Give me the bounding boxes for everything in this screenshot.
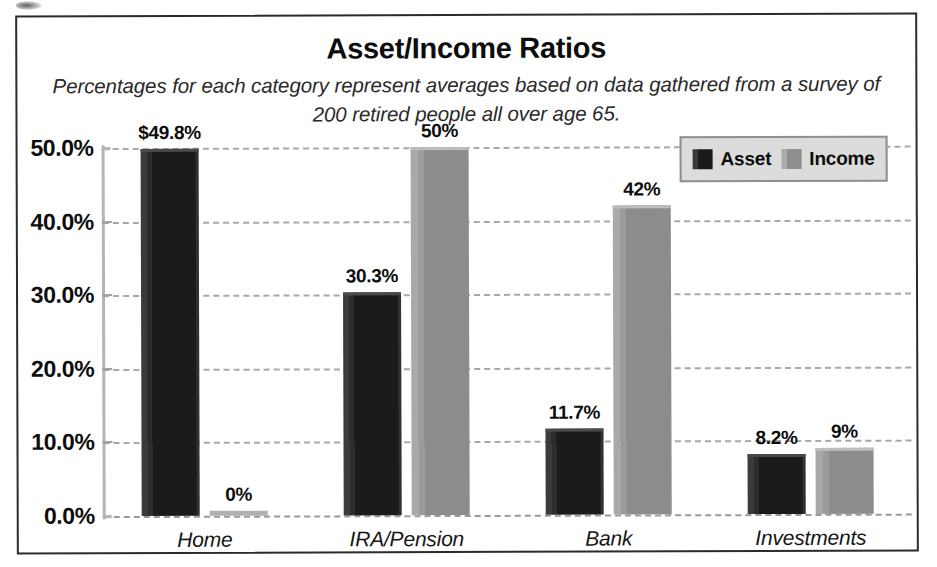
x-axis-category-label: Home [177, 528, 232, 552]
bar-value-label: 30.3% [346, 265, 398, 287]
y-axis-tick [102, 147, 111, 150]
y-axis-tick-label: 50.0% [30, 135, 93, 162]
y-axis-tick-label: 20.0% [31, 355, 94, 382]
chart-legend: Asset Income [680, 136, 888, 183]
y-axis-tick-label: 10.0% [31, 429, 94, 456]
bar-income-ira-pension[interactable] [411, 147, 470, 515]
bar-income-investments[interactable] [816, 447, 874, 513]
y-axis-tick-label: 40.0% [31, 208, 94, 235]
legend-item-asset[interactable]: Asset [693, 148, 772, 170]
legend-swatch-income [781, 149, 801, 169]
y-axis-tick [102, 442, 112, 444]
bar-value-label: 9% [831, 421, 858, 443]
bar-income-home[interactable] [210, 511, 268, 516]
bar-asset-ira-pension[interactable] [343, 292, 402, 515]
legend-item-income[interactable]: Income [781, 148, 874, 170]
bar-value-label: 50% [421, 120, 458, 142]
plot-area: $49.8%0%Home30.3%50%IRA/Pension11.7%42%B… [103, 135, 912, 518]
y-axis-tick [102, 221, 112, 223]
legend-label-asset: Asset [721, 148, 772, 170]
bar-value-label: 0% [225, 484, 252, 506]
chart-frame: Asset/Income Ratios Percentages for each… [15, 13, 919, 555]
y-axis-tick-label: 0.0% [44, 503, 95, 530]
y-axis-tick [103, 515, 112, 518]
y-axis-tick [102, 294, 112, 296]
bar-value-label: 8.2% [755, 427, 797, 449]
bar-value-label: 11.7% [549, 401, 600, 423]
bar-income-bank[interactable] [613, 205, 672, 514]
bar-value-label: $49.8% [138, 122, 201, 144]
chart-title: Asset/Income Ratios [17, 31, 915, 67]
bar-asset-investments[interactable] [748, 454, 806, 515]
x-axis-category-label: Bank [585, 526, 632, 550]
scan-artifact [16, 1, 42, 10]
bar-asset-home[interactable] [141, 149, 200, 516]
bar-value-label: 42% [623, 178, 660, 200]
y-axis-tick-label: 30.0% [31, 282, 94, 309]
chart-canvas: Asset/Income Ratios Percentages for each… [17, 15, 917, 553]
y-axis-tick [102, 368, 112, 370]
chart-subtitle: Percentages for each category represent … [51, 69, 881, 130]
x-axis-category-label: IRA/Pension [349, 527, 464, 551]
y-axis-labels: 0.0%10.0%20.0%30.0%40.0%50.0% [17, 17, 103, 556]
gridline [103, 366, 911, 371]
legend-swatch-asset [693, 149, 713, 169]
bar-asset-bank[interactable] [545, 428, 603, 514]
legend-label-income: Income [809, 148, 874, 170]
gridline [103, 293, 911, 298]
gridline [103, 219, 911, 224]
x-axis-category-label: Investments [755, 526, 866, 550]
